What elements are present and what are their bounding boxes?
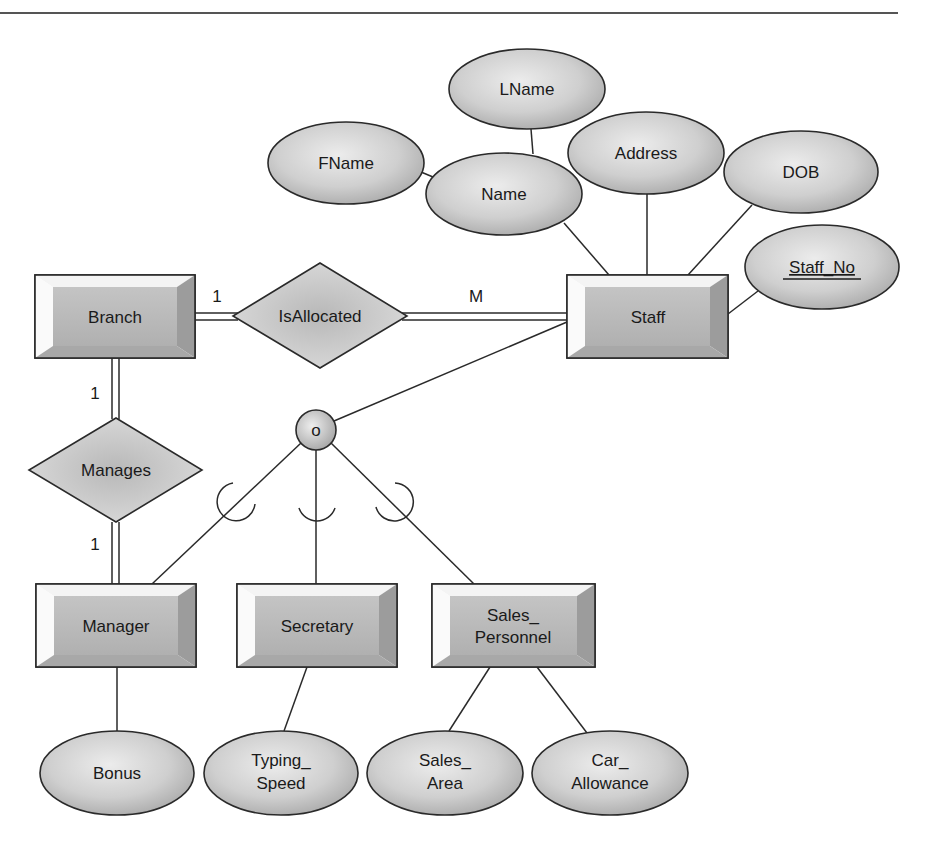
entity-label: Secretary — [281, 617, 354, 636]
attribute-label: Bonus — [93, 764, 141, 783]
attribute-label-line1: Sales_ — [419, 751, 472, 770]
attribute-car-allowance[interactable]: Car_ Allowance — [532, 731, 688, 815]
attribute-address[interactable]: Address — [568, 112, 724, 194]
attribute-label: DOB — [783, 163, 820, 182]
relationship-isallocated[interactable]: IsAllocated — [233, 263, 407, 368]
line-lname-name — [531, 129, 533, 154]
attribute-label-line2: Allowance — [571, 774, 649, 793]
attribute-label-line2: Area — [427, 774, 463, 793]
entity-staff[interactable]: Staff — [567, 275, 728, 358]
subset-icon-secretary — [299, 508, 335, 521]
cardinality-branch-manages: 1 — [90, 384, 99, 403]
attribute-label-line1: Typing_ — [251, 751, 311, 770]
entity-label-line1: Sales_ — [487, 606, 540, 625]
line-salespersonnel-carallowance — [537, 667, 587, 733]
attribute-label: Name — [481, 185, 526, 204]
entity-branch[interactable]: Branch — [35, 275, 195, 358]
attribute-dob[interactable]: DOB — [724, 131, 878, 213]
attribute-label: LName — [500, 80, 555, 99]
attribute-typing-speed[interactable]: Typing_ Speed — [204, 731, 358, 815]
attribute-lname[interactable]: LName — [449, 49, 605, 129]
subset-icon-salespersonnel — [376, 483, 413, 521]
attribute-label-line1: Car_ — [592, 751, 629, 770]
line-salespersonnel-salesarea — [449, 667, 490, 731]
attribute-name[interactable]: Name — [426, 153, 582, 235]
line-name-staff — [564, 223, 609, 275]
line-secretary-typingspeed — [284, 667, 307, 731]
entity-sales-personnel[interactable]: Sales_ Personnel — [432, 584, 595, 667]
line-staffno-staff — [728, 291, 758, 314]
attribute-label: Address — [615, 144, 677, 163]
relationship-manages[interactable]: Manages — [29, 418, 202, 522]
line-spec-salespersonnel — [331, 443, 474, 584]
entity-label: Branch — [88, 308, 142, 327]
cardinality-isallocated-staff: M — [469, 287, 483, 306]
attribute-sales-area[interactable]: Sales_ Area — [367, 731, 523, 815]
entity-label-line2: Personnel — [475, 628, 552, 647]
key-attribute-label: Staff_No — [789, 258, 855, 277]
line-dob-staff — [688, 205, 752, 275]
entity-label: Manager — [82, 617, 149, 636]
cardinality-manages-manager: 1 — [90, 535, 99, 554]
specialization-circle[interactable]: o — [296, 410, 336, 450]
attribute-label-line2: Speed — [256, 774, 305, 793]
entity-secretary[interactable]: Secretary — [237, 584, 397, 667]
attribute-fname[interactable]: FName — [268, 122, 424, 204]
attribute-staff-no[interactable]: Staff_No — [745, 225, 899, 309]
subset-symbols — [217, 483, 413, 521]
attribute-label: FName — [318, 154, 374, 173]
er-diagram: LName FName Name Address DOB Staff_No Bo… — [0, 0, 935, 844]
subset-icon-manager — [217, 483, 255, 521]
relationship-label: IsAllocated — [278, 307, 361, 326]
cardinality-branch-isallocated: 1 — [212, 287, 221, 306]
relationship-label: Manages — [81, 461, 151, 480]
attribute-bonus[interactable]: Bonus — [40, 731, 194, 815]
overlap-constraint-label: o — [311, 421, 320, 440]
entity-label: Staff — [631, 308, 666, 327]
entity-manager[interactable]: Manager — [36, 584, 196, 667]
